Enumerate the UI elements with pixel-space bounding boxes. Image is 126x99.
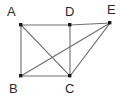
geometry-figure: A D E B C bbox=[0, 0, 126, 99]
vertex-point-C bbox=[68, 74, 71, 77]
vertex-label-c: C bbox=[65, 82, 74, 95]
vertex-label-a: A bbox=[7, 5, 16, 18]
edge-DE bbox=[70, 23, 110, 25]
vertex-point-E bbox=[108, 21, 111, 24]
vertex-point-D bbox=[68, 23, 71, 26]
edge-BE bbox=[21, 23, 110, 76]
vertex-point-B bbox=[19, 74, 22, 77]
edge-group bbox=[21, 23, 110, 76]
vertex-point-A bbox=[19, 23, 22, 26]
vertex-label-d: D bbox=[65, 5, 74, 18]
vertex-label-e: E bbox=[107, 3, 116, 16]
edge-CE bbox=[70, 23, 110, 76]
vertex-label-b: B bbox=[9, 82, 18, 95]
edge-AC bbox=[21, 25, 70, 76]
